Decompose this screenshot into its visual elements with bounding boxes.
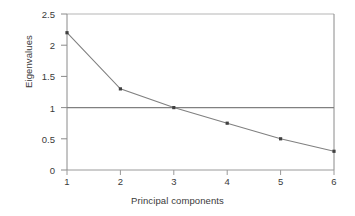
y-axis-ticks: [61, 14, 67, 170]
data-point-marker: [332, 150, 335, 153]
y-tick-label-1.5: 1.5: [28, 71, 55, 82]
eigenvalue-series-line: [67, 33, 334, 152]
data-point-marker: [119, 87, 122, 90]
y-tick-label-2.5: 2.5: [28, 9, 55, 20]
x-tick-label-2: 2: [118, 176, 123, 187]
y-tick-label-2: 2: [28, 40, 55, 51]
x-tick-label-5: 5: [278, 176, 283, 187]
data-point-marker: [279, 137, 282, 140]
data-point-marker: [65, 31, 68, 34]
y-axis-title: Eigenvalues: [23, 12, 34, 112]
y-tick-label-1: 1: [28, 102, 55, 113]
eigenvalue-data-points: [65, 31, 335, 153]
data-point-marker: [226, 122, 229, 125]
x-tick-label-4: 4: [225, 176, 230, 187]
x-axis-ticks: [67, 170, 334, 175]
x-axis-title: Principal components: [0, 195, 355, 206]
x-tick-label-6: 6: [331, 176, 336, 187]
data-point-marker: [172, 106, 175, 109]
y-tick-label-0.5: 0.5: [28, 133, 55, 144]
y-tick-label-0: 0: [28, 165, 55, 176]
x-tick-label-1: 1: [64, 176, 69, 187]
scree-plot-figure: Eigenvalues Principal components 2.5 2 1…: [0, 0, 355, 216]
x-tick-label-3: 3: [171, 176, 176, 187]
